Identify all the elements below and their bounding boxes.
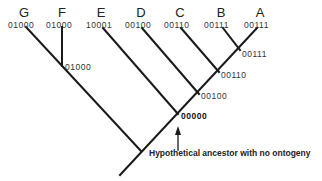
taxon-label-G: G xyxy=(14,6,34,19)
node-code-ABC: 00110 xyxy=(221,71,247,80)
branch-B xyxy=(223,28,240,50)
taxon-code-C: 00110 xyxy=(164,21,190,30)
taxon-code-D: 00100 xyxy=(125,21,151,30)
node-code-GF: 01000 xyxy=(65,63,91,72)
taxon-label-C: C xyxy=(170,6,190,19)
branch-E xyxy=(103,28,178,114)
arrow-head-icon xyxy=(175,126,181,135)
taxon-label-A: A xyxy=(250,6,270,19)
branch-G xyxy=(26,27,141,151)
taxon-code-F: 01000 xyxy=(46,21,72,30)
taxon-label-B: B xyxy=(211,6,231,19)
node-code-ancestor: 00000 xyxy=(181,112,207,121)
taxon-code-E: 10001 xyxy=(86,21,112,30)
taxon-code-G: 01000 xyxy=(8,21,34,30)
taxon-code-A: 00111 xyxy=(244,21,269,30)
node-code-AB: 00111 xyxy=(242,50,267,59)
taxon-label-D: D xyxy=(131,6,151,19)
ancestor-annotation: Hypothetical ancestor with no ontogeny xyxy=(149,148,311,158)
taxon-label-F: F xyxy=(52,6,72,19)
branch-C xyxy=(181,28,219,72)
taxon-code-B: 00111 xyxy=(204,21,229,30)
taxon-label-E: E xyxy=(91,6,111,19)
node-code-ABCD: 00100 xyxy=(201,92,227,101)
